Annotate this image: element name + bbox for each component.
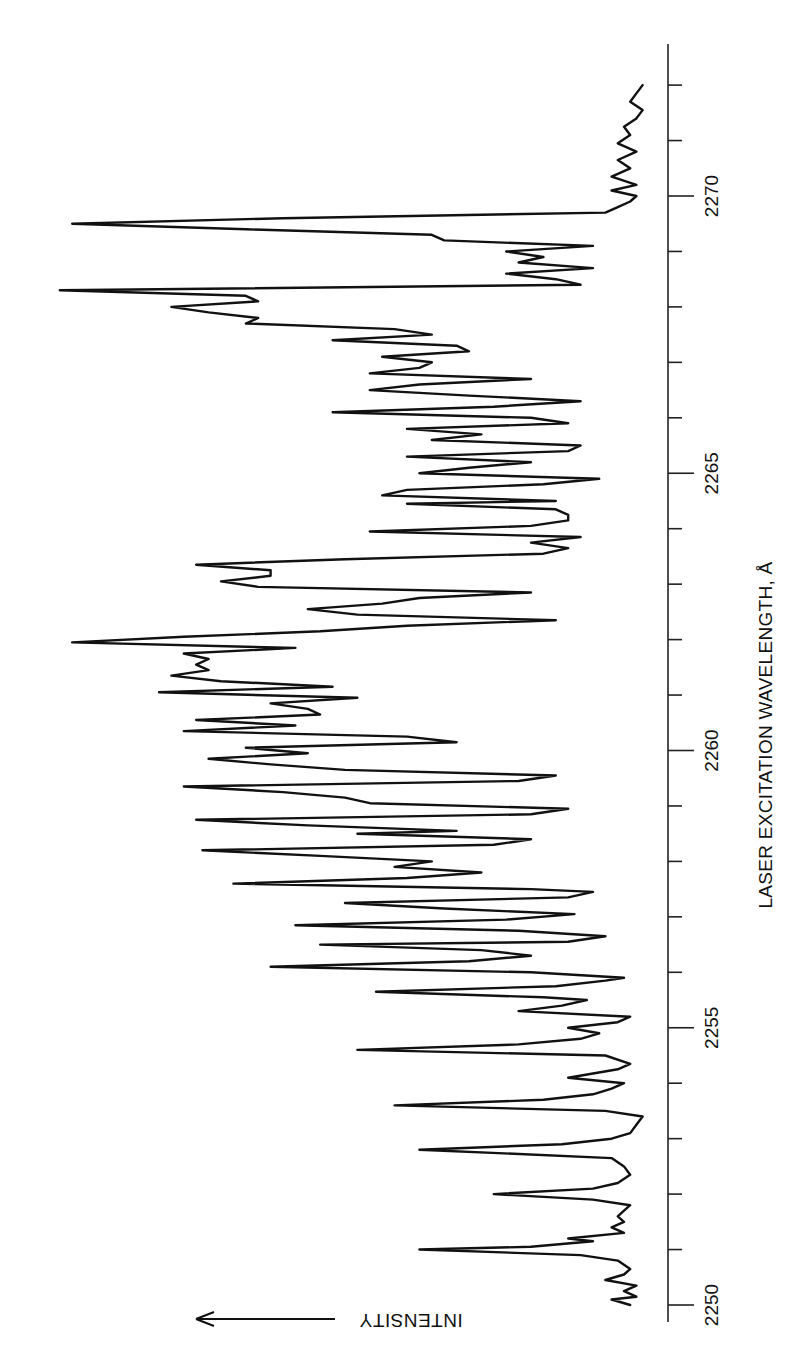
wavelength-axis-tick-labels: 22502255226022652270 xyxy=(701,175,722,1326)
tick-label: 2265 xyxy=(701,452,722,494)
spectrum-chart: 22502255226022652270 LASER EXCITATION WA… xyxy=(0,0,810,1346)
tick-label: 2250 xyxy=(701,1284,722,1326)
wavelength-axis-title: LASER EXCITATION WAVELENGTH, Å xyxy=(755,561,776,908)
wavelength-axis-ticks xyxy=(668,85,694,1305)
tick-label: 2260 xyxy=(701,729,722,771)
tick-label: 2270 xyxy=(701,175,722,217)
tick-label: 2255 xyxy=(701,1007,722,1049)
intensity-axis-title: INTENSITY xyxy=(359,1310,463,1331)
spectrum-trace xyxy=(60,85,643,1305)
intensity-label-group: INTENSITY xyxy=(196,1310,463,1331)
wavelength-axis: 22502255226022652270 xyxy=(668,44,722,1326)
